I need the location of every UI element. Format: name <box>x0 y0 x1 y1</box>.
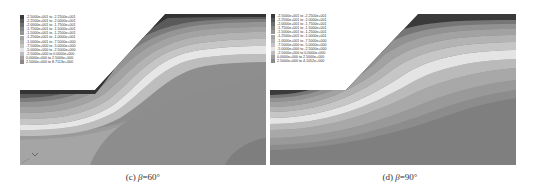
legend-row: 2.5000e+000 to 4.1052e+000 <box>271 59 327 63</box>
caption-d: (d) β=90° <box>340 172 460 182</box>
panel-d-contour-plot: -2.5000e+001 to -2.2500e+001 -2.2500e+00… <box>267 0 534 170</box>
caption-c: (c) β=60° <box>83 172 203 182</box>
panel-c-contour-plot: -2.5000e+001 to -2.2500e+001 -2.2500e+00… <box>0 0 267 170</box>
legend-c: -2.5000e+001 to -2.2500e+001 -2.2500e+00… <box>20 15 76 64</box>
legend-swatch <box>271 59 275 63</box>
legend-d: -2.5000e+001 to -2.2500e+001 -2.2500e+00… <box>271 14 327 63</box>
legend-row: 2.5000e+000 to 8.7113e+000 <box>20 60 76 64</box>
legend-swatch <box>20 60 24 64</box>
